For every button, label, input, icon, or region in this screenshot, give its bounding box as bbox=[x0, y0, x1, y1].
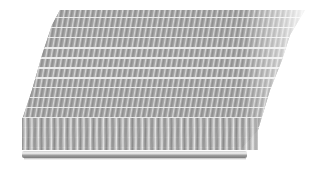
edge-fade bbox=[242, 0, 332, 177]
belt-front-spirals bbox=[22, 118, 258, 150]
connecting-rod bbox=[22, 151, 247, 158]
rod-shadow bbox=[24, 158, 246, 160]
product-photo bbox=[0, 0, 332, 177]
